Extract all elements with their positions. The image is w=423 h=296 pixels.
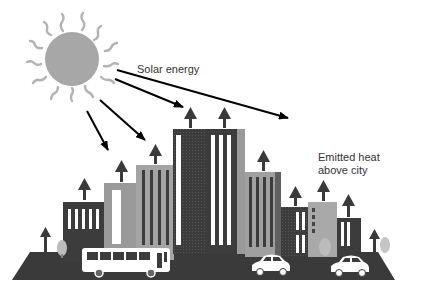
heat-arrow-icon (342, 194, 355, 217)
heat-arrow-icon (149, 144, 162, 164)
heat-arrow-icon (289, 186, 302, 206)
solar-arrow-icon (117, 70, 288, 118)
heat-arrow-icon (115, 160, 128, 182)
emitted-heat-line2: above city (318, 164, 380, 177)
heat-arrow-icon (317, 180, 330, 201)
heat-arrow-icon (184, 107, 197, 128)
emitted-heat-label: Emitted heat above city (318, 151, 380, 177)
emitted-heat-line1: Emitted heat (318, 151, 380, 164)
solar-arrow-icon (115, 79, 183, 107)
heat-arrow-icon (78, 178, 91, 200)
solar-arrow-icon (87, 111, 108, 150)
sun-icon (27, 13, 118, 101)
tree-icon (380, 237, 390, 253)
heat-arrow-icon (218, 107, 231, 128)
tree-icon (319, 238, 331, 256)
urban-heat-diagram (0, 0, 423, 296)
heat-arrow-icon (40, 227, 51, 254)
solar-energy-label: Solar energy (137, 63, 199, 76)
solar-arrow-icon (100, 100, 145, 140)
heat-arrow-icon (257, 150, 270, 171)
heat-arrow-icon (369, 229, 380, 253)
